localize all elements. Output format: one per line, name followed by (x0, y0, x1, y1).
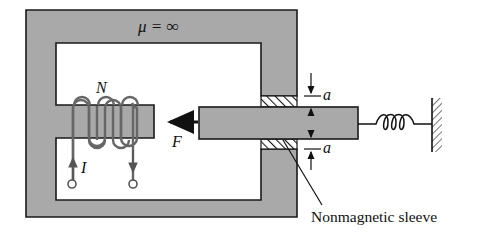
fixed-wall-icon (432, 98, 442, 152)
gap-top-label: a (323, 86, 331, 103)
current-label: I (80, 159, 87, 176)
spring-icon (358, 115, 432, 130)
actuator-diagram: μ = ∞ N I F a a Nonmagnetic sleeve (0, 0, 493, 252)
coil-terminals (68, 150, 137, 188)
permeability-label: μ = ∞ (137, 17, 179, 36)
sleeve-label: Nonmagnetic sleeve (311, 208, 437, 225)
gap-bottom-label: a (323, 139, 331, 156)
force-label: F (171, 133, 182, 150)
turns-label: N (95, 79, 108, 96)
plunger (199, 107, 358, 139)
